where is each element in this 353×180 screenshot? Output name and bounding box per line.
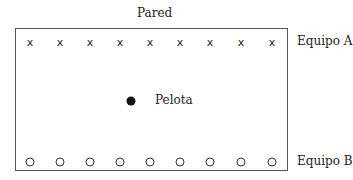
- team-b-player-icon: [86, 158, 95, 167]
- team-b-label: Equipo B: [297, 154, 353, 168]
- ball-icon: [127, 97, 136, 106]
- team-b-player-icon: [206, 158, 215, 167]
- team-b-player-icon: [176, 158, 185, 167]
- team-a-player-icon: x: [117, 36, 124, 49]
- team-a-player-icon: x: [27, 36, 34, 49]
- team-a-label: Equipo A: [297, 34, 352, 48]
- team-a-player-icon: x: [269, 36, 276, 49]
- team-a-player-icon: x: [87, 36, 94, 49]
- wall-label: Pared: [137, 6, 172, 20]
- team-b-player-icon: [116, 158, 125, 167]
- playing-field: [15, 28, 288, 171]
- team-a-player-icon: x: [57, 36, 64, 49]
- team-b-player-icon: [268, 158, 277, 167]
- ball-label: Pelota: [155, 93, 193, 107]
- team-b-player-icon: [56, 158, 65, 167]
- team-a-player-icon: x: [238, 36, 245, 49]
- team-a-player-icon: x: [147, 36, 154, 49]
- team-a-player-icon: x: [207, 36, 214, 49]
- team-b-player-icon: [26, 158, 35, 167]
- team-b-player-icon: [146, 158, 155, 167]
- team-a-player-icon: x: [177, 36, 184, 49]
- team-b-player-icon: [237, 158, 246, 167]
